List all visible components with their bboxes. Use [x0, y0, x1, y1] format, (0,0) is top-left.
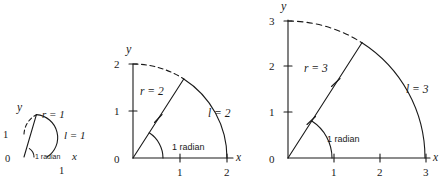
panel-r1-y-axis-label: y [16, 101, 23, 114]
panel-r3-labels: y 3 2 1 0 r = 3 l = 3 1 radian x 1 2 3 [269, 0, 439, 178]
panel-r3-y-tick-1: 1 [269, 106, 275, 118]
panel-r3-y-axis-label: y [280, 0, 287, 13]
arc-length-r1 [36, 115, 57, 157]
panel-r2-y-tick-1: 1 [114, 105, 120, 117]
radius-unit-tick-r3-2 [332, 79, 341, 87]
radius-line-r1 [24, 115, 36, 157]
panel-r1-y-tick-1: 1 [3, 129, 8, 140]
panel-r1-radius-label: r = 1 [42, 108, 65, 120]
arc-length-r3 [362, 43, 425, 158]
panel-r2-origin-label: 0 [114, 153, 120, 165]
dashed-arc-r3 [288, 21, 362, 43]
dashed-arc-r1 [24, 115, 36, 134]
panel-r2-y-axis-label: y [125, 42, 132, 56]
panel-r3-origin-label: 0 [269, 153, 275, 165]
panel-r2-x-tick-1: 1 [177, 166, 183, 178]
angle-arc-r2 [149, 133, 163, 158]
panel-r2-radius-label: r = 2 [140, 85, 164, 97]
panel-r3-x-tick-2: 2 [377, 166, 383, 178]
panel-r3-y-tick-2: 2 [269, 60, 275, 72]
panel-r3-x-tick-1: 1 [331, 166, 337, 178]
panel-r3-radius-label: r = 3 [304, 62, 328, 74]
panel-r1-graphic: y 1 0 r = 1 l = 1 1 radian x 1 [0, 0, 444, 179]
radian-measure-figure: y 1 0 r = 1 l = 1 1 radian x 1 [0, 0, 444, 179]
panel-r2-x-axis-label: x [235, 151, 242, 163]
panel-r1-x-axis-label: x [71, 150, 77, 162]
panel-r1-angle-label: 1 radian [35, 153, 60, 160]
panel-r2-angle-label: 1 radian [172, 142, 205, 152]
radius-unit-tick-r2-1 [155, 115, 163, 123]
panel-r1-labels: y 1 0 r = 1 l = 1 1 radian x 1 [3, 101, 85, 176]
panel-r3-x-axis-label: x [432, 151, 439, 163]
panel-r1-origin-label: 0 [5, 153, 10, 164]
panel-r3-y-tick-3: 3 [269, 15, 275, 27]
panel-r3-x-tick-3: 3 [423, 166, 429, 178]
panel-r2-y-tick-2: 2 [114, 58, 120, 70]
panel-r1 [24, 115, 58, 157]
panel-r3-angle-label: 1 radian [327, 134, 360, 144]
panel-r2-arc-label: l = 2 [208, 107, 231, 119]
panel-r1-arc-label: l = 1 [64, 129, 85, 141]
panel-r1-x-tick-1: 1 [59, 165, 64, 176]
panel-r3-arc-label: l = 3 [406, 83, 429, 95]
angle-arc-r1 [29, 149, 34, 157]
dashed-arc-r2 [133, 64, 184, 79]
panel-r2-x-tick-2: 2 [224, 166, 230, 178]
